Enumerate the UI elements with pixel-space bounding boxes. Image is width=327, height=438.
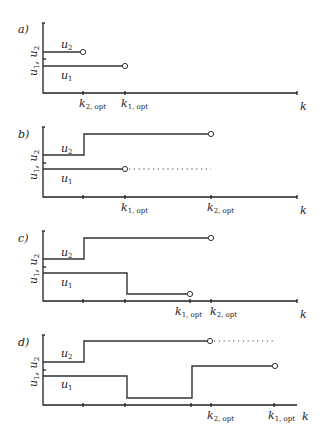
panel-label-d: d)	[18, 336, 29, 349]
u2-endpoint	[208, 235, 213, 240]
u1-label: u1	[61, 378, 73, 392]
panel-b: b) u1, u2 u2 u1 k1, opt k2, opt k	[18, 127, 307, 217]
panel-label-c: c)	[18, 232, 28, 245]
u2-endpoint	[208, 131, 213, 136]
axes	[43, 231, 297, 301]
tick-label-k2opt: k2, opt	[79, 97, 106, 111]
u1-endpoint	[122, 63, 127, 68]
tick-label-k2opt: k2, opt	[210, 305, 237, 319]
y-axis-label: u1, u2	[27, 150, 41, 180]
u1-endpoint	[272, 363, 277, 368]
u2-label: u2	[61, 142, 73, 156]
x-axis-label: k	[302, 410, 309, 423]
u1-label: u1	[61, 69, 73, 83]
u1-endpoint	[187, 291, 192, 296]
u2-label: u2	[61, 347, 73, 361]
tick-label-k2opt: k2, opt	[207, 201, 234, 215]
axes	[43, 127, 297, 197]
panel-a: a) u1, u2 u2 u1 k2, opt k1, opt k	[18, 23, 307, 113]
tick-label-k1opt: k1, opt	[175, 305, 202, 319]
tick-label-k1opt: k1, opt	[121, 97, 148, 111]
u2-label: u2	[61, 246, 73, 260]
axes	[43, 23, 297, 93]
x-axis-label: k	[300, 100, 307, 113]
u2-endpoint	[207, 338, 212, 343]
u2-label: u2	[61, 38, 73, 52]
tick-label-k2opt: k2, opt	[207, 409, 234, 423]
x-axis-label: k	[300, 308, 307, 321]
panel-label-a: a)	[18, 23, 29, 36]
x-axis-label: k	[300, 204, 307, 217]
tick-label-k1opt: k1, opt	[268, 409, 295, 423]
u1-label: u1	[61, 276, 73, 290]
tick-label-k1opt: k1, opt	[121, 201, 148, 215]
u1-line	[43, 366, 275, 398]
y-axis-label: u1, u2	[27, 46, 41, 76]
u1-endpoint	[122, 166, 127, 171]
figure: a) u1, u2 u2 u1 k2, opt k1, opt k b) u1,…	[0, 0, 327, 438]
panel-c: c) u1, u2 u2 u1 k1, opt k2, opt k	[18, 231, 307, 321]
u2-endpoint	[80, 49, 85, 54]
y-axis-label: u1, u2	[27, 357, 41, 387]
panel-d: d) u1, u2 u2 u1 k2, opt k1, opt k	[18, 335, 309, 423]
u1-label: u1	[61, 172, 73, 186]
panel-label-b: b)	[18, 128, 29, 141]
axes	[43, 335, 297, 405]
y-axis-label: u1, u2	[27, 254, 41, 284]
